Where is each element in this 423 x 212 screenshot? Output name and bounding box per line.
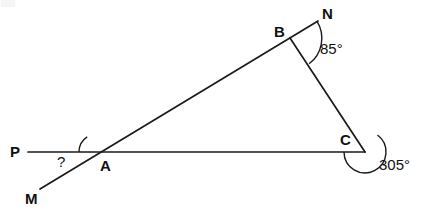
angle-label-B: 85° [320,41,343,56]
vertex-label-P: P [10,144,20,159]
vertex-label-M: M [25,191,38,206]
angle-arc-A [79,137,87,152]
angle-label-C: 305° [379,157,410,172]
vertex-label-B: B [274,24,285,39]
vertex-label-C: C [340,132,351,147]
vertex-label-N: N [322,6,333,21]
geometry-diagram: P M A B N C ? 85° 305° [0,0,423,212]
angle-label-A: ? [57,154,65,169]
vertex-label-A: A [100,158,111,173]
line-MN [40,21,318,189]
diagram-canvas [0,0,423,212]
